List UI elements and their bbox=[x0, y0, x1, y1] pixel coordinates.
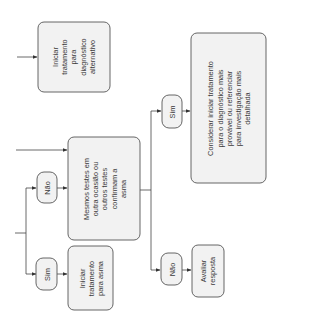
label-evaluate: Avaliar resposta bbox=[192, 245, 224, 297]
label-yes-right: Sim bbox=[162, 95, 182, 128]
label-alt-treatment: Iniciar tratamento para diagnóstico alte… bbox=[39, 22, 109, 92]
label-no-right: Não bbox=[161, 253, 182, 285]
label-yes-left: Sim bbox=[36, 258, 57, 290]
label-repeat-tests: Mesmos testes em outra ocasião ou outros… bbox=[68, 137, 140, 240]
label-no-left: Não bbox=[37, 172, 57, 203]
label-asthma-treatment: Iniciar tratamento para asma bbox=[68, 246, 113, 310]
label-consider: Considerar iniciar tratamento para o dia… bbox=[191, 33, 266, 183]
